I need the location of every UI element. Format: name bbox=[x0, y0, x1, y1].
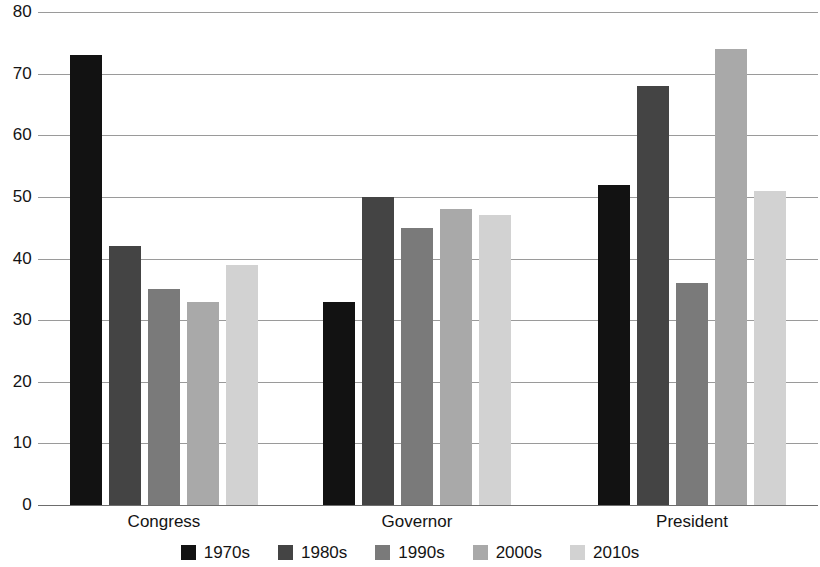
bar[interactable] bbox=[70, 55, 102, 505]
y-tick-label: 0 bbox=[0, 496, 32, 513]
y-tick-label: 70 bbox=[0, 65, 32, 82]
bar[interactable] bbox=[637, 86, 669, 505]
y-tick-label: 80 bbox=[0, 3, 32, 20]
bar-chart: 01020304050607080 CongressGovernorPresid… bbox=[0, 0, 820, 567]
bar[interactable] bbox=[362, 197, 394, 505]
legend-item[interactable]: 1970s bbox=[181, 544, 250, 561]
legend-label: 1990s bbox=[398, 544, 444, 561]
legend-label: 1980s bbox=[301, 544, 347, 561]
legend-label: 2010s bbox=[593, 544, 639, 561]
y-tick-label: 20 bbox=[0, 373, 32, 390]
bar-group bbox=[598, 12, 786, 505]
bar[interactable] bbox=[109, 246, 141, 505]
legend-swatch-icon bbox=[473, 545, 488, 560]
bar[interactable] bbox=[479, 215, 511, 505]
legend-label: 1970s bbox=[204, 544, 250, 561]
x-axis-category-label: President bbox=[598, 512, 786, 532]
y-tick-label: 30 bbox=[0, 311, 32, 328]
y-tick-label: 60 bbox=[0, 126, 32, 143]
bar[interactable] bbox=[323, 302, 355, 505]
y-tick-label: 10 bbox=[0, 434, 32, 451]
bar[interactable] bbox=[148, 289, 180, 505]
legend-label: 2000s bbox=[496, 544, 542, 561]
legend-swatch-icon bbox=[278, 545, 293, 560]
axis-baseline bbox=[38, 505, 818, 506]
chart-legend: 1970s1980s1990s2000s2010s bbox=[0, 538, 820, 566]
bar-group bbox=[70, 12, 258, 505]
bar-groups bbox=[38, 12, 818, 505]
legend-item[interactable]: 1990s bbox=[375, 544, 444, 561]
bar[interactable] bbox=[401, 228, 433, 505]
bar[interactable] bbox=[187, 302, 219, 505]
bar[interactable] bbox=[676, 283, 708, 505]
legend-swatch-icon bbox=[181, 545, 196, 560]
legend-swatch-icon bbox=[375, 545, 390, 560]
bar[interactable] bbox=[715, 49, 747, 505]
bar-group bbox=[323, 12, 511, 505]
y-tick-label: 50 bbox=[0, 188, 32, 205]
legend-item[interactable]: 2000s bbox=[473, 544, 542, 561]
legend-item[interactable]: 2010s bbox=[570, 544, 639, 561]
legend-item[interactable]: 1980s bbox=[278, 544, 347, 561]
bar[interactable] bbox=[754, 191, 786, 505]
y-tick-label: 40 bbox=[0, 250, 32, 267]
legend-swatch-icon bbox=[570, 545, 585, 560]
bar[interactable] bbox=[226, 265, 258, 505]
y-axis: 01020304050607080 bbox=[0, 12, 32, 505]
x-axis-category-label: Congress bbox=[70, 512, 258, 532]
x-axis-category-label: Governor bbox=[323, 512, 511, 532]
x-axis: CongressGovernorPresident bbox=[38, 508, 818, 538]
bar[interactable] bbox=[598, 185, 630, 505]
bar[interactable] bbox=[440, 209, 472, 505]
